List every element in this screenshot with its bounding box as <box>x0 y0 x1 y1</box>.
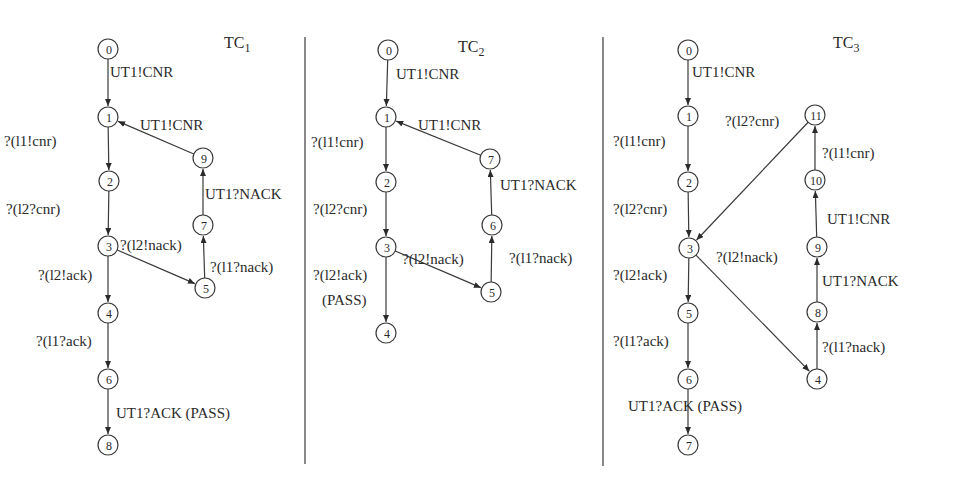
state-number: 9 <box>815 241 821 255</box>
edge-label: UT1!CNR <box>418 117 481 133</box>
state-number: 2 <box>384 176 390 190</box>
state-node: 5 <box>481 282 501 302</box>
state-node: 3 <box>376 237 396 257</box>
state-node: 1 <box>98 107 118 127</box>
edge-label: ?(l1?ack) <box>613 333 669 350</box>
edge-label: UT1!CNR <box>692 64 755 80</box>
state-number: 1 <box>106 111 112 125</box>
state-number: 5 <box>686 307 692 321</box>
edge-label: ?(l1!cnr) <box>4 133 56 150</box>
state-node: 2 <box>376 172 396 192</box>
state-node: 5 <box>195 278 215 298</box>
state-number: 5 <box>489 286 495 300</box>
state-node: 9 <box>193 148 213 168</box>
state-number: 9 <box>201 152 207 166</box>
state-node: 7 <box>678 435 698 455</box>
edge-5-to-7 <box>203 236 204 278</box>
edge-3-to-4 <box>696 255 809 371</box>
edge-label: UT1?NACK <box>500 177 577 193</box>
edge-label: ?(l1!cnr) <box>822 145 874 162</box>
edge-label: ?(l2!nack) <box>120 237 182 254</box>
state-node: 6 <box>678 369 698 389</box>
state-number: 2 <box>107 175 113 189</box>
state-node: 8 <box>98 435 118 455</box>
edge-label: ?(l1?ack) <box>36 333 92 350</box>
panel-tc2: TC2UT1!CNR?(l1!cnr)?(l2?cnr)?(l2!ack)(PA… <box>311 38 577 343</box>
state-node: 0 <box>98 39 118 59</box>
edge-label: ?(l2?cnr) <box>6 201 60 218</box>
state-node: 4 <box>376 323 396 343</box>
state-number: 7 <box>201 219 207 233</box>
state-number: 0 <box>386 44 392 58</box>
state-node: 1 <box>376 107 396 127</box>
edge-label: UT1!CNR <box>396 66 459 82</box>
edge-label: UT1?NACK <box>205 186 282 202</box>
edge-label: ?(l2?cnr) <box>313 201 367 218</box>
state-number: 8 <box>815 306 821 320</box>
edge-label: ?(l2?cnr) <box>725 113 779 130</box>
state-number: 5 <box>203 282 209 296</box>
state-number: 3 <box>687 242 693 256</box>
edge-label: ?(l1!cnr) <box>613 133 665 150</box>
state-node: 3 <box>98 236 118 256</box>
state-number: 7 <box>686 439 692 453</box>
edge-label: ?(l1?nack) <box>210 259 273 276</box>
state-number: 7 <box>488 153 494 167</box>
state-number: 2 <box>686 176 692 190</box>
state-number: 11 <box>810 109 822 123</box>
edge-label: ?(l2!nack) <box>716 249 778 266</box>
state-node: 3 <box>679 238 699 258</box>
state-node: 0 <box>678 40 698 60</box>
state-node: 2 <box>678 172 698 192</box>
edge-11-to-3 <box>697 122 809 240</box>
state-number: 4 <box>815 373 821 387</box>
state-number: 4 <box>106 307 112 321</box>
state-number: 0 <box>106 43 112 57</box>
state-number: 3 <box>384 241 390 255</box>
edge-9-to-10 <box>815 191 816 237</box>
edge-label: UT1?NACK <box>822 273 899 289</box>
edge-label: ?(l2!ack) <box>313 267 367 284</box>
state-node: 0 <box>378 40 398 60</box>
edge-6-to-7 <box>490 170 491 215</box>
edge-label: ?(l2!ack) <box>613 267 667 284</box>
state-number: 10 <box>810 174 822 188</box>
state-number: 4 <box>384 327 390 341</box>
edge-label-verdict: (PASS) <box>322 292 366 309</box>
state-node: 6 <box>98 369 118 389</box>
state-node: 10 <box>805 170 825 190</box>
edge-label: UT1?ACK (PASS) <box>628 398 742 415</box>
panel-title: TC3 <box>833 34 859 55</box>
edge-1-to-2 <box>108 127 109 170</box>
panel-title: TC1 <box>224 34 250 55</box>
edge-3-to-5 <box>117 250 195 284</box>
edge-label: ?(l1?nack) <box>822 339 885 356</box>
edge-0-to-1 <box>386 60 387 106</box>
state-node: 7 <box>193 215 213 235</box>
edge-label: UT1?ACK (PASS) <box>116 405 230 422</box>
state-node: 2 <box>99 171 119 191</box>
state-node: 7 <box>480 149 500 169</box>
state-number: 0 <box>686 44 692 58</box>
edge-label: ?(l1?nack) <box>509 250 572 267</box>
state-node: 8 <box>807 302 827 322</box>
edge-label: ?(l1!cnr) <box>311 134 363 151</box>
edge-2-to-3 <box>108 191 109 235</box>
state-number: 3 <box>106 240 112 254</box>
panel-tc3: TC3UT1!CNR?(l1!cnr)?(l2?cnr)?(l2!ack)?(l… <box>613 34 899 455</box>
state-node: 4 <box>98 303 118 323</box>
state-number: 6 <box>686 373 692 387</box>
state-number: 8 <box>106 439 112 453</box>
edge-5-to-6 <box>491 236 492 282</box>
panel-title: TC2 <box>458 38 484 59</box>
state-node: 5 <box>678 303 698 323</box>
state-node: 4 <box>807 369 827 389</box>
state-number: 1 <box>686 110 692 124</box>
edge-label: ?(l2?cnr) <box>613 201 667 218</box>
test-case-diagrams: TC1UT1!CNR?(l1!cnr)?(l2?cnr)?(l2!ack)?(l… <box>0 0 954 484</box>
state-node: 6 <box>482 215 502 235</box>
state-node: 11 <box>805 105 825 125</box>
state-node: 9 <box>807 237 827 257</box>
edge-label: UT1!CNR <box>140 117 203 133</box>
state-number: 1 <box>384 111 390 125</box>
